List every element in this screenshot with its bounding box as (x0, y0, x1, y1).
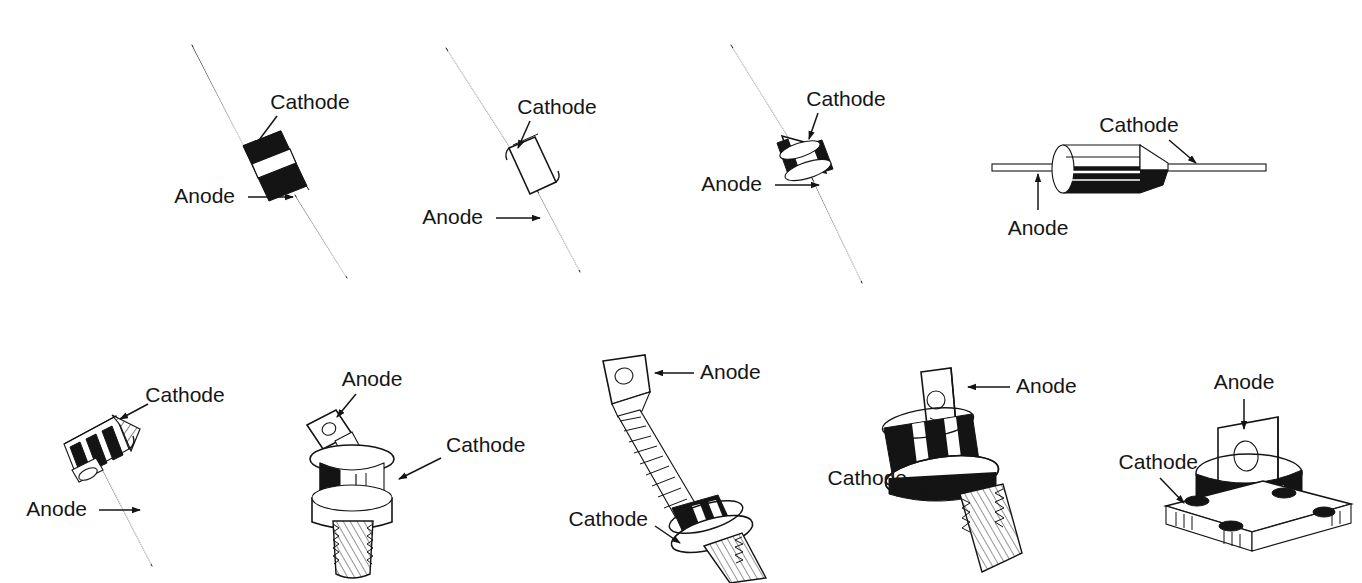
anode-label-text: Anode (1214, 370, 1275, 393)
cathode-label-text: Cathode (446, 433, 525, 456)
anode-label-text: Anode (1016, 374, 1077, 397)
threaded-stud (333, 521, 373, 578)
mounting-hole (1185, 496, 1209, 506)
cathode-label-text: Cathode (270, 90, 349, 113)
anode-label-text: Anode (174, 184, 235, 207)
figure-canvas: Cathode Anode Cathode (0, 0, 1362, 583)
anode-label-text: Anode (26, 497, 87, 520)
cathode-label-text: Cathode (1099, 113, 1178, 136)
mounting-hole (1272, 488, 1296, 498)
cathode-label-text: Cathode (1119, 450, 1198, 473)
anode-label-text: Anode (1008, 216, 1069, 239)
cathode-label-text: Cathode (517, 95, 596, 118)
diode-body (1052, 145, 1168, 193)
diode-package-figure: Cathode Anode Cathode (0, 0, 1362, 583)
cathode-label-text: Cathode (806, 87, 885, 110)
anode-label-text: Anode (700, 360, 761, 383)
anode-label-text: Anode (422, 205, 483, 228)
cathode-label-text: Cathode (569, 507, 648, 530)
mounting-hole (1219, 521, 1243, 531)
cathode-label-text: Cathode (145, 383, 224, 406)
anode-label-text: Anode (342, 367, 403, 390)
anode-label-text: Anode (701, 172, 762, 195)
cathode-label-text: Cathode (828, 466, 907, 489)
